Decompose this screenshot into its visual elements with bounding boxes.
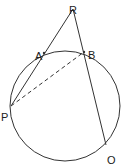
label-P: P (1, 111, 8, 123)
circle (10, 51, 120, 161)
diagram-canvas: RABPQ (0, 0, 123, 164)
point-B (83, 51, 85, 53)
point-A (43, 52, 45, 54)
label-A: A (35, 50, 43, 62)
label-B: B (88, 49, 95, 61)
geometry-diagram: RABPQ (0, 0, 123, 164)
segment-RQ (73, 9, 106, 145)
label-Q: Q (107, 154, 116, 164)
segment-PB (11, 52, 84, 106)
label-R: R (69, 4, 77, 16)
